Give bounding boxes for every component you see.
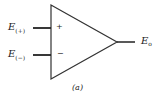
figure-caption: (a) — [72, 84, 83, 92]
amplifier-triangle — [51, 5, 117, 79]
inverting-input-label: E(−) — [8, 49, 25, 59]
input-minus-subscript: (−) — [15, 54, 25, 61]
plus-sign: + — [56, 23, 63, 31]
input-plus-subscript: (+) — [15, 27, 25, 34]
minus-sign: − — [57, 50, 64, 58]
noninverting-input-label: E(+) — [8, 22, 25, 32]
output-subscript: o — [148, 40, 152, 47]
output-label: Eo — [141, 36, 152, 46]
